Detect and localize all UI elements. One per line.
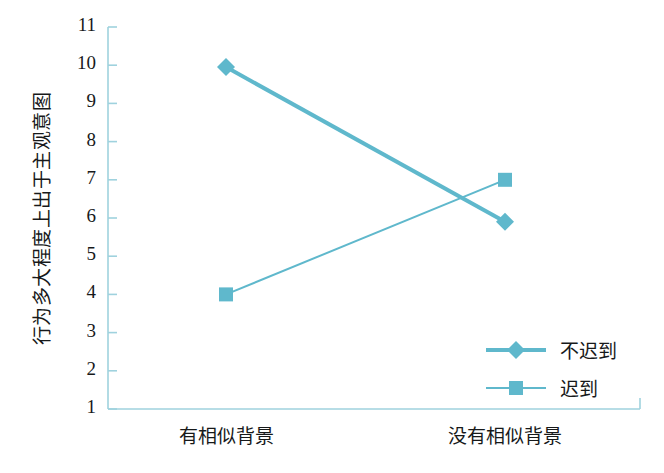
y-axis-tick-label: 6	[62, 205, 96, 227]
series-lines	[226, 67, 505, 294]
line-chart: 行为多大程度上出于主观意图 1110987654321 有相似背景没有相似背景 …	[0, 0, 664, 473]
legend-marker	[509, 381, 523, 395]
data-point-marker	[217, 58, 235, 76]
series-markers	[217, 58, 514, 301]
legend-marker	[507, 341, 525, 359]
series-line	[226, 67, 505, 222]
legend-markers	[486, 341, 546, 395]
y-axis-tick-label: 10	[62, 52, 96, 74]
y-axis-tick-label: 1	[62, 396, 96, 418]
y-axis-tick-label: 2	[62, 358, 96, 380]
chart-canvas	[0, 0, 664, 473]
data-point-marker	[219, 287, 233, 301]
x-axis-tick-label: 没有相似背景	[405, 421, 605, 448]
data-point-marker	[496, 213, 514, 231]
y-axis-tick-label: 8	[62, 129, 96, 151]
y-axis-tick-label: 7	[62, 167, 96, 189]
y-axis-tick-label: 9	[62, 90, 96, 112]
y-axis-tick-label: 5	[62, 243, 96, 265]
x-axis-tick-label: 有相似背景	[126, 421, 326, 448]
data-point-marker	[498, 173, 512, 187]
legend-label: 迟到	[560, 374, 598, 401]
series-line	[226, 180, 505, 295]
legend-label: 不迟到	[560, 336, 617, 363]
y-axis-tick-label: 3	[62, 320, 96, 342]
y-axis-ticks	[108, 27, 117, 409]
y-axis-tick-label: 4	[62, 281, 96, 303]
y-axis-tick-label: 11	[62, 14, 96, 36]
y-axis-label: 行为多大程度上出于主观意图	[27, 29, 54, 409]
